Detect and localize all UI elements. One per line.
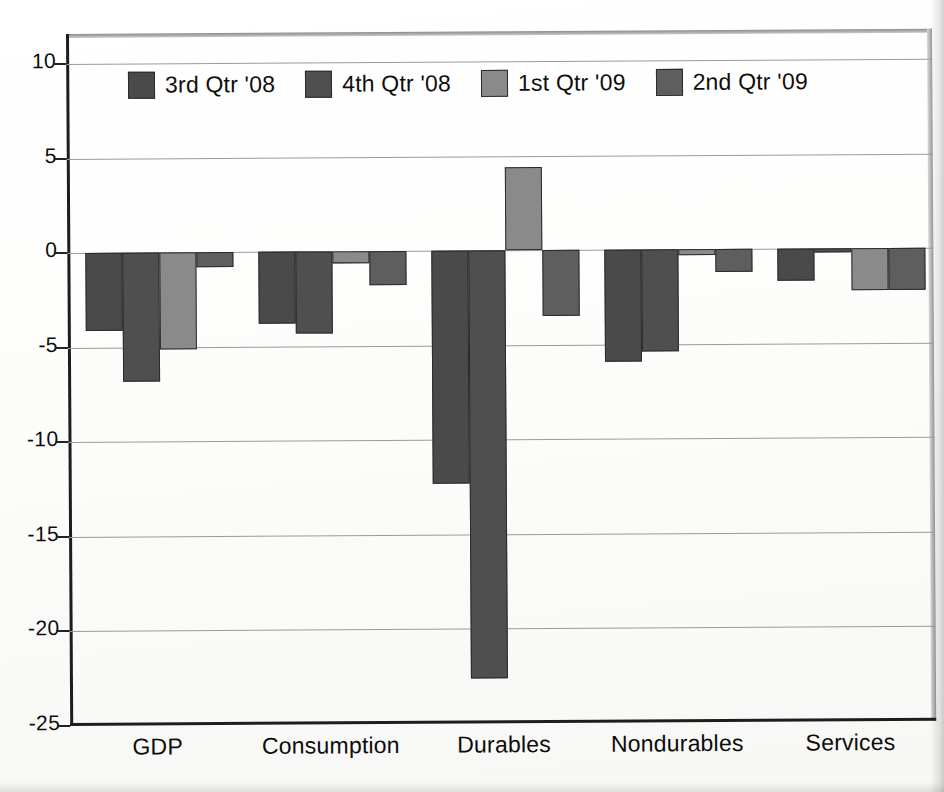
legend-item-1[interactable]: 3rd Qtr '08 <box>128 71 275 99</box>
bar-series-container <box>66 29 936 726</box>
y-tick--10 <box>55 441 68 443</box>
y-tick-label-10: 10 <box>32 49 56 73</box>
legend-label-1: 3rd Qtr '08 <box>165 71 275 99</box>
bar-nondurables-series-4 <box>716 249 753 272</box>
bar-services-series-2 <box>815 249 852 253</box>
bar-durables-series-2 <box>468 251 508 679</box>
legend-swatch-icon-3 <box>481 70 508 97</box>
plot-area <box>66 29 936 726</box>
bar-durables-series-4 <box>542 250 579 316</box>
y-tick-label-5: 5 <box>45 144 57 168</box>
y-tick-10 <box>53 63 66 65</box>
bar-gdp-series-1 <box>85 253 122 331</box>
y-tick-label--20: -20 <box>28 616 60 640</box>
chart-legend: 3rd Qtr '084th Qtr '081st Qtr '092nd Qtr… <box>128 68 808 99</box>
x-tick-label-durables: Durables <box>457 731 551 759</box>
legend-label-2: 4th Qtr '08 <box>342 70 451 98</box>
legend-item-4[interactable]: 2nd Qtr '09 <box>656 68 808 96</box>
x-tick-label-nondurables: Nondurables <box>611 730 744 758</box>
y-tick-5 <box>54 158 67 160</box>
bar-services-series-1 <box>778 249 815 281</box>
y-tick-label--15: -15 <box>27 522 59 546</box>
bar-gdp-series-2 <box>122 253 160 382</box>
legend-swatch-icon-2 <box>305 71 332 98</box>
legend-label-3: 1st Qtr '09 <box>518 69 626 97</box>
legend-item-2[interactable]: 4th Qtr '08 <box>305 70 451 98</box>
bar-nondurables-series-2 <box>642 250 680 352</box>
bar-gdp-series-3 <box>159 253 197 350</box>
y-tick--20 <box>57 630 70 632</box>
x-axis-labels: GDPConsumptionDurablesNondurablesService… <box>66 729 932 774</box>
legend-swatch-icon-4 <box>656 69 683 96</box>
y-tick-label--25: -25 <box>29 711 61 735</box>
y-axis-labels: 1050-5-10-15-20-25 <box>0 34 60 726</box>
y-tick--5 <box>55 347 68 349</box>
legend-item-3[interactable]: 1st Qtr '09 <box>481 69 626 97</box>
y-tick-label--10: -10 <box>27 427 59 451</box>
y-tick-0 <box>54 252 67 254</box>
y-tick--15 <box>56 536 69 538</box>
bar-services-series-4 <box>889 248 926 290</box>
y-tick-label--5: -5 <box>38 333 58 357</box>
x-tick-label-services: Services <box>805 729 895 757</box>
legend-label-4: 2nd Qtr '09 <box>693 68 808 96</box>
bar-consumption-series-4 <box>369 251 406 285</box>
bar-consumption-series-1 <box>258 252 295 324</box>
x-tick-label-gdp: GDP <box>132 733 183 760</box>
bar-chart-figure: 1050-5-10-15-20-25 3rd Qtr '084th Qtr '0… <box>0 0 944 792</box>
y-tick--25 <box>57 725 70 727</box>
bar-durables-series-3 <box>505 167 543 250</box>
legend-swatch-icon-1 <box>128 72 155 99</box>
y-tick-label-0: 0 <box>45 238 57 262</box>
bar-consumption-series-3 <box>332 251 369 263</box>
bar-services-series-3 <box>852 248 889 290</box>
bar-durables-series-1 <box>431 251 469 484</box>
bar-nondurables-series-1 <box>605 250 643 362</box>
bar-nondurables-series-3 <box>679 249 716 255</box>
bar-gdp-series-4 <box>196 252 233 267</box>
x-tick-label-consumption: Consumption <box>262 732 400 760</box>
bar-consumption-series-2 <box>295 252 332 334</box>
